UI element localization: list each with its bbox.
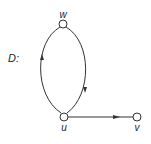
node-v (133, 113, 141, 121)
edge-u-w (41, 27, 61, 113)
arrowhead-u-w-icon (40, 54, 44, 60)
node-w (59, 20, 67, 28)
graph-name-label: D: (8, 52, 19, 64)
node-label-u: u (61, 122, 67, 133)
arrowhead-w-u-icon (83, 87, 87, 93)
node-label-w: w (59, 9, 67, 20)
node-u (60, 113, 68, 121)
digraph-d: D: w u v (0, 0, 151, 144)
arrowhead-u-v-icon (113, 115, 120, 119)
edge-w-u (66, 27, 86, 113)
node-label-v: v (135, 122, 141, 133)
